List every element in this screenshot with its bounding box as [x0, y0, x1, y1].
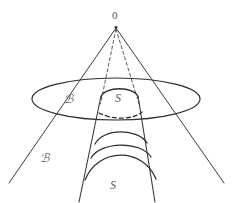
label-outer-cross-section: ℬ — [64, 93, 73, 105]
inner-surface-hidden-arc-dashed — [99, 112, 142, 118]
label-inner-surface-upper: S — [115, 92, 121, 104]
label-outer-region: ℬ — [40, 152, 49, 164]
inner-surface-left-edge — [79, 96, 101, 202]
inner-surface-arc-2 — [95, 132, 147, 144]
inner-surface-arc-3 — [91, 145, 151, 158]
label-apex: 0 — [112, 10, 118, 21]
label-inner-surface-lower: S — [110, 179, 116, 191]
apex-point — [115, 26, 118, 29]
figure-canvas: 0 ℬ S ℬ S — [0, 0, 233, 203]
cone-right-generator — [116, 28, 224, 183]
cone-left-generator — [9, 28, 116, 183]
inner-surface-arc-4 — [85, 155, 156, 180]
